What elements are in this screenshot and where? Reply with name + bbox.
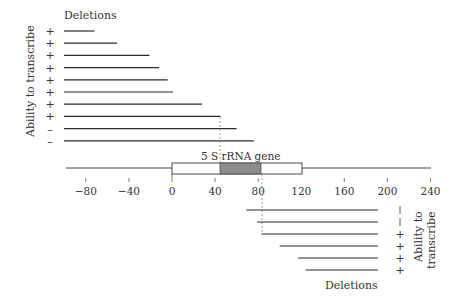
downstream-ability-label-2: transcribe <box>425 212 438 269</box>
axis-tick-label: 0 <box>169 185 176 197</box>
transcription-symbol: + <box>45 98 54 111</box>
axis-tick-label: −80 <box>75 185 97 197</box>
axis-tick-label: 120 <box>291 185 311 197</box>
transcription-symbol: – <box>47 123 53 136</box>
axis-ticks: −80−4004080120160200240 <box>75 174 441 197</box>
transcription-symbol: + <box>45 49 54 62</box>
downstream-deletions-footer: Deletions <box>325 279 378 292</box>
axis-tick-label: 40 <box>208 185 221 197</box>
transcription-symbol: + <box>45 74 54 87</box>
transcription-symbol: + <box>45 86 54 99</box>
transcription-symbol: – <box>47 135 53 148</box>
transcription-symbol: + <box>45 37 54 50</box>
gene-label: 5 S rRNA gene <box>201 150 281 162</box>
downstream-deletion-rows: ++++ <box>246 206 404 277</box>
deletion-map-diagram: Deletions Ability to transcribe ++++++++… <box>0 0 463 303</box>
axis-tick-label: 80 <box>251 185 264 197</box>
axis-tick-label: 240 <box>420 185 440 197</box>
transcription-symbol: + <box>45 110 54 123</box>
axis-tick-label: 160 <box>334 185 354 197</box>
axis-tick-label: 200 <box>377 185 397 197</box>
axis-tick-label: −40 <box>118 185 140 197</box>
gene-coding-region <box>220 163 261 174</box>
transcription-symbol: + <box>45 62 54 75</box>
upstream-deletions-header: Deletions <box>64 9 117 22</box>
downstream-ability-label-1: Ability to <box>412 211 425 263</box>
transcription-symbol: + <box>45 25 54 38</box>
upstream-ability-label: Ability to transcribe <box>24 25 37 138</box>
upstream-deletion-rows: ++++++++–– <box>45 25 253 148</box>
transcription-symbol: + <box>395 264 404 277</box>
